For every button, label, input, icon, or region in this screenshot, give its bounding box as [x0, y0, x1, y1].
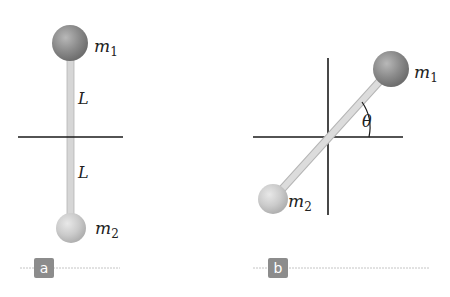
mass-2-label: m2 [95, 218, 119, 241]
rod [274, 72, 388, 198]
mass-1-ball [52, 25, 88, 61]
panel-a: m1 L L m2 a [18, 25, 123, 278]
mass-2-label: m2 [288, 191, 312, 214]
length-label-top: L [77, 89, 89, 108]
panel-b: m1 m2 θ b [253, 51, 438, 278]
mass-1-label: m1 [414, 62, 438, 85]
mass-2-ball [258, 184, 288, 214]
dumbbell-diagram: m1 L L m2 a m1 m2 θ b [0, 0, 450, 297]
mass-2-ball [56, 213, 86, 243]
length-label-bottom: L [77, 163, 89, 182]
panel-b-tag: b [274, 260, 283, 276]
mass-1-ball [373, 51, 409, 87]
panel-a-tag: a [40, 260, 49, 276]
angle-label: θ [362, 112, 372, 131]
mass-1-label: m1 [94, 36, 118, 59]
